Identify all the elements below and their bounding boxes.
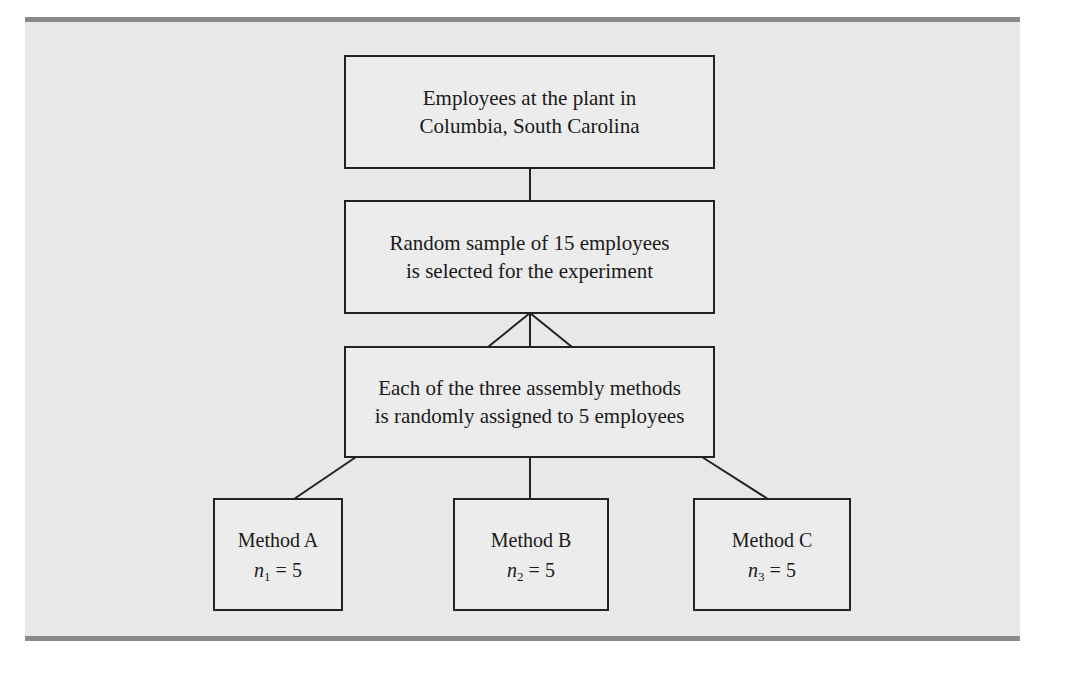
assignment-box: Each of the three assembly methods is ra… xyxy=(344,346,715,458)
connector-sample-assign-right xyxy=(530,313,572,347)
population-text-line-2: Columbia, South Carolina xyxy=(420,112,640,140)
method-a-box: Method A n1 = 5 xyxy=(213,498,343,611)
connector-sample-assign-left xyxy=(488,313,530,347)
sample-text-line-2: is selected for the experiment xyxy=(406,257,653,285)
connector-assign-method-c xyxy=(702,457,768,499)
population-text-line-1: Employees at the plant in xyxy=(423,84,636,112)
method-b-box: Method B n2 = 5 xyxy=(453,498,609,611)
method-a-label: Method A xyxy=(238,525,319,555)
method-c-sample-size: n3 = 5 xyxy=(748,555,796,585)
method-c-label: Method C xyxy=(732,525,813,555)
method-b-sample-size: n2 = 5 xyxy=(507,555,555,585)
method-c-box: Method C n3 = 5 xyxy=(693,498,851,611)
sample-text-line-1: Random sample of 15 employees xyxy=(390,229,670,257)
assignment-text-line-2: is randomly assigned to 5 employees xyxy=(375,402,685,430)
method-b-label: Method B xyxy=(491,525,572,555)
sample-box: Random sample of 15 employees is selecte… xyxy=(344,200,715,314)
method-a-sample-size: n1 = 5 xyxy=(254,555,302,585)
connector-assign-method-a xyxy=(294,457,356,499)
population-box: Employees at the plant in Columbia, Sout… xyxy=(344,55,715,169)
assignment-text-line-1: Each of the three assembly methods xyxy=(378,374,681,402)
